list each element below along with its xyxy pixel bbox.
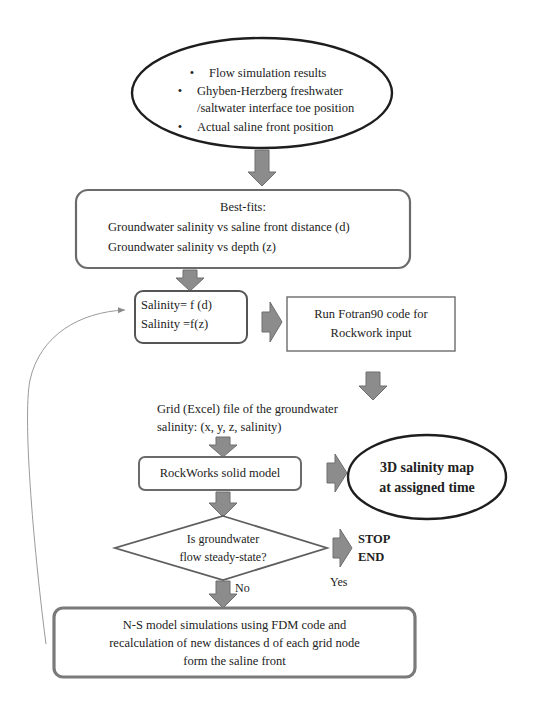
bullet-icon: • <box>175 119 185 136</box>
arrow-down-icon <box>176 270 204 291</box>
best-fits-title: Best-fits: <box>76 199 410 216</box>
decision-line1: Is groundwater <box>150 531 296 548</box>
best-fits-line1: Groundwater salinity vs saline front dis… <box>108 219 408 236</box>
output-map-line1: 3D salinity map <box>348 458 506 477</box>
ns-model-line2: recalculation of new distances d of each… <box>54 635 415 652</box>
decision-no-label: No <box>235 580 250 597</box>
ns-model-line3: form the saline front <box>54 653 415 670</box>
arrow-down-icon <box>359 372 387 400</box>
fortran-line1: Run Fotran90 code for <box>287 306 455 323</box>
output-ellipse <box>348 435 506 519</box>
input-flow-simulation: Flow simulation results <box>209 66 326 80</box>
arrow-down-icon <box>209 581 237 608</box>
fortran-line2: Rockwork input <box>287 325 455 342</box>
bullet-icon: • <box>187 65 197 82</box>
bullet-icon: • <box>175 83 185 100</box>
best-fits-line2: Groundwater salinity vs depth (z) <box>108 239 408 256</box>
decision-diamond <box>115 516 327 580</box>
terminal-end: END <box>358 549 384 566</box>
salinity-function-d: Salinity= f (d) <box>141 297 246 314</box>
decision-yes-label: Yes <box>330 574 347 591</box>
arrow-right-icon <box>333 529 352 567</box>
arrow-down-icon <box>209 437 237 457</box>
feedback-loop-arrow <box>28 310 125 644</box>
input-ghyben-herzberg-line1: Ghyben-Herzberg freshwater <box>197 84 343 98</box>
grid-file-line2: salinity: (x, y, z, salinity) <box>157 419 417 436</box>
terminal-stop: STOP <box>358 531 390 548</box>
inputs-list-item: • Actual saline front position <box>175 119 385 136</box>
decision-line2: flow steady-state? <box>150 549 296 566</box>
arrow-right-icon <box>327 454 347 492</box>
inputs-list-item: • Flow simulation results <box>187 65 385 82</box>
input-ghyben-herzberg-line2: /saltwater interface toe position <box>197 101 354 115</box>
ns-model-line1: N-S model simulations using FDM code and <box>54 617 415 634</box>
rockworks-label: RockWorks solid model <box>139 465 301 482</box>
arrow-down-icon <box>209 492 237 517</box>
arrow-down-icon <box>248 150 276 186</box>
arrow-right-icon <box>262 302 282 342</box>
inputs-list: • Flow simulation results • Ghyben-Herzb… <box>175 65 385 136</box>
output-map-line2: at assigned time <box>348 478 506 497</box>
grid-file-line1: Grid (Excel) file of the groundwater <box>157 401 417 418</box>
inputs-list-item: • Ghyben-Herzberg freshwater /saltwater … <box>175 83 385 117</box>
input-saline-front: Actual saline front position <box>197 120 333 134</box>
salinity-function-z: Salinity =f(z) <box>141 316 246 333</box>
